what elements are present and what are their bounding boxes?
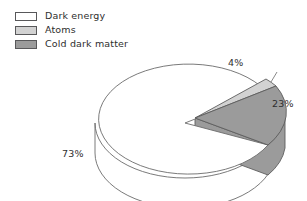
data-label-dark-energy: 73%: [62, 148, 84, 159]
pie-graphic: [0, 0, 307, 201]
data-label-cold-dark-matter: 23%: [272, 98, 294, 109]
pie-chart-figure: Dark energy Atoms Cold dark matter 4% 23…: [0, 0, 307, 201]
data-label-atoms: 4%: [228, 57, 243, 68]
atoms-leader-line: [271, 72, 277, 82]
